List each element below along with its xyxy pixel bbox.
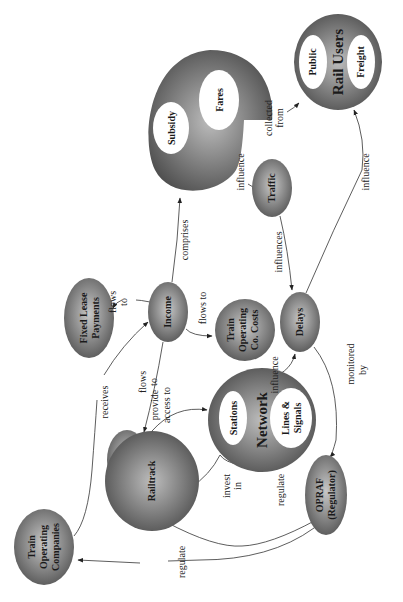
edge-label-from: from xyxy=(274,108,285,128)
label-network: Network xyxy=(254,391,270,447)
edge-label-regulate-tocs: regulate xyxy=(176,545,187,578)
label-signals: Signals xyxy=(292,403,303,434)
label-toc-costs-3: Co. Costs xyxy=(249,310,260,351)
edge-label-flows-1: flows xyxy=(107,291,118,313)
label-tocs-1: Train xyxy=(26,535,37,559)
edge-delays-railusers xyxy=(306,110,363,293)
label-railtrack: Railtrack xyxy=(146,460,157,501)
edge-label-invest: invest xyxy=(221,474,232,498)
label-toc-costs-1: Train xyxy=(225,318,236,342)
node-toc-costs[interactable]: Train Operating Co. Costs xyxy=(215,299,275,361)
node-delays[interactable]: Delays xyxy=(280,292,320,352)
edge-label-flows-to: flows to xyxy=(197,292,208,325)
label-rail-users: Rail Users xyxy=(330,29,346,95)
node-train-operating-companies[interactable]: Train Operating Companies xyxy=(14,509,74,585)
edge-label-influence-fares: influence xyxy=(235,153,246,191)
edge-regulate-railtrack xyxy=(166,520,316,546)
label-lines: Lines & xyxy=(280,401,291,435)
edge-label-to-2: to xyxy=(148,378,159,386)
edge-label-influences: influences xyxy=(273,231,284,272)
label-freight: Freight xyxy=(355,46,366,78)
edge-collected-from-arrow xyxy=(287,103,299,112)
edge-label-collected: collected xyxy=(263,100,274,136)
label-opraf-2: (Regulator) xyxy=(326,470,338,519)
label-stations: Stations xyxy=(228,401,239,436)
edge-regulate-tocs xyxy=(168,528,314,561)
edge-label-to-1: to xyxy=(118,298,129,306)
label-toc-costs-2: Operating xyxy=(237,308,248,352)
label-tocs-2: Operating xyxy=(38,525,49,569)
label-opraf-1: OPRAF xyxy=(314,478,325,512)
edge-label-access-to: access to xyxy=(161,387,172,423)
node-rail-users[interactable]: Public Freight Rail Users xyxy=(294,14,382,110)
node-income-sources[interactable]: Subsidy Fares xyxy=(148,50,272,191)
node-opraf[interactable]: OPRAF (Regulator) xyxy=(305,455,347,535)
label-fixed-lease-1: Fixed Lease xyxy=(78,292,89,343)
label-tocs-3: Companies xyxy=(50,523,61,571)
edge-label-comprises: comprises xyxy=(179,220,190,261)
node-network[interactable]: Stations Lines & Signals Network xyxy=(208,368,316,472)
edge-label-provide: provide xyxy=(149,389,160,420)
concept-map-diagram: Public Freight Rail Users Subsidy Fares … xyxy=(0,0,403,602)
edge-label-by: by xyxy=(357,365,368,375)
edge-label-in: in xyxy=(232,482,243,490)
edge-income-toccosts xyxy=(186,329,212,336)
edge-label-flows-2: flows xyxy=(137,371,148,393)
node-fixed-lease-payments[interactable]: Fixed Lease Payments xyxy=(64,278,114,358)
node-income[interactable]: Income xyxy=(148,282,188,342)
edge-regulate-tocs-arrow xyxy=(78,560,140,563)
label-income: Income xyxy=(162,296,173,328)
node-traffic[interactable]: Traffic xyxy=(252,159,292,217)
edge-tocs-receives xyxy=(74,400,97,536)
edge-label-monitored: monitored xyxy=(345,343,356,384)
node-railtrack[interactable]: Railtrack xyxy=(105,431,199,531)
edge-income-lease xyxy=(136,300,150,302)
label-public: Public xyxy=(307,48,318,76)
label-subsidy: Subsidy xyxy=(166,111,177,145)
label-fares: Fares xyxy=(214,88,225,112)
edge-monitored xyxy=(314,347,337,457)
edge-label-receives: receives xyxy=(99,386,110,419)
label-fixed-lease-2: Payments xyxy=(90,297,101,339)
edge-label-influence-network: influence xyxy=(269,356,280,394)
edge-label-regulate-railtrack: regulate xyxy=(275,473,286,506)
label-delays: Delays xyxy=(294,308,305,336)
label-traffic: Traffic xyxy=(266,173,277,203)
edge-label-influence-delays: influence xyxy=(360,153,371,191)
